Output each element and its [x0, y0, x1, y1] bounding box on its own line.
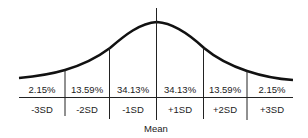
- sd-label-minus-2: -2SD: [64, 104, 110, 115]
- sd-label-plus-3: +3SD: [249, 104, 295, 115]
- bell-curve-chart: [0, 0, 308, 138]
- pct-label-minus-1sd: 34.13%: [110, 84, 156, 95]
- sd-label-minus-3: -3SD: [19, 104, 65, 115]
- pct-label-plus-3sd: 2.15%: [249, 84, 295, 95]
- sd-label-minus-1: -1SD: [110, 104, 156, 115]
- pct-label-minus-2sd: 13.59%: [64, 84, 110, 95]
- sd-label-plus-1: +1SD: [157, 104, 203, 115]
- pct-label-plus-2sd: 13.59%: [202, 84, 248, 95]
- sd-label-plus-2: +2SD: [202, 104, 248, 115]
- pct-label-plus-1sd: 34.13%: [157, 84, 203, 95]
- mean-label: Mean: [136, 123, 176, 134]
- pct-label-minus-3sd: 2.15%: [19, 84, 65, 95]
